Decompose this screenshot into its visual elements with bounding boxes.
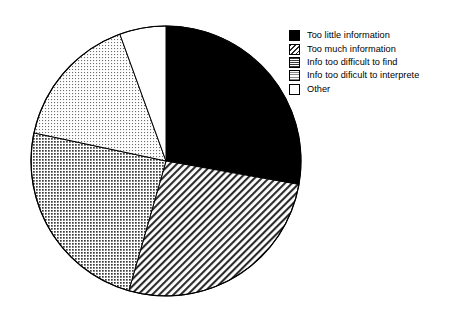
white-swatch-icon bbox=[289, 84, 300, 95]
pie-slice bbox=[166, 26, 301, 184]
legend-item-info-too-difficult-to-interprete: Info too dificult to interprete bbox=[289, 69, 454, 82]
fine-dotted-swatch-icon bbox=[289, 70, 300, 81]
legend-item-other: Other bbox=[289, 83, 454, 96]
legend-label: Too much information bbox=[307, 44, 396, 55]
legend-item-too-little-information: Too little information bbox=[289, 29, 454, 42]
legend-label: Other bbox=[307, 84, 330, 95]
solid-black-swatch-icon bbox=[289, 30, 300, 41]
legend-label: Info too dificult to interprete bbox=[307, 70, 419, 81]
legend-item-info-too-difficult-to-find: Info too difficult to find bbox=[289, 56, 454, 69]
pie-chart-svg bbox=[0, 0, 320, 327]
legend-label: Too little information bbox=[307, 30, 390, 41]
cross-hatch-grid-swatch-icon bbox=[289, 57, 300, 68]
legend-label: Info too difficult to find bbox=[307, 57, 398, 68]
pie-chart-figure: Too little information Too much informat… bbox=[0, 0, 458, 327]
legend-item-too-much-information: Too much information bbox=[289, 42, 454, 55]
chart-legend: Too little information Too much informat… bbox=[289, 29, 454, 96]
pie-chart-plot-area bbox=[0, 0, 320, 327]
diagonal-hatch-swatch-icon bbox=[289, 44, 300, 55]
